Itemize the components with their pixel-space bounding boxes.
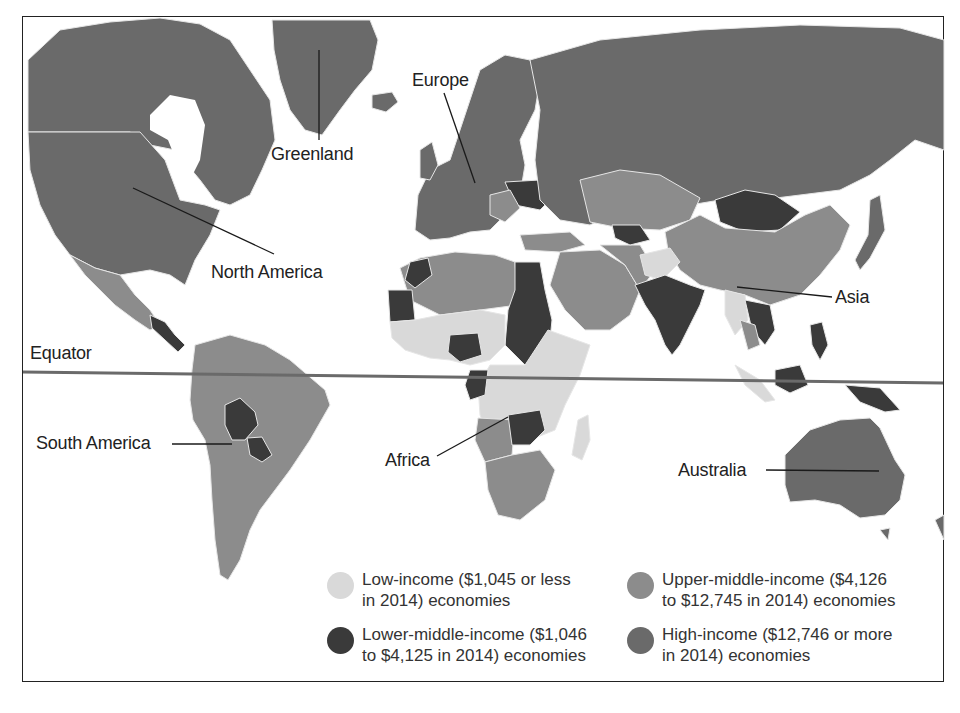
label-greenland: Greenland — [271, 144, 353, 165]
region-australia — [785, 418, 905, 518]
region-afghanistan — [640, 248, 680, 280]
region-philippines — [810, 322, 828, 360]
legend-label-lower-middle-income: Lower-middle-income ($1,046 to $4,125 in… — [362, 624, 662, 666]
region-japan — [855, 195, 885, 270]
label-asia: Asia — [835, 287, 869, 308]
label-africa: Africa — [385, 450, 430, 471]
region-central-america — [150, 315, 185, 352]
legend-item-lower-middle-income: Lower-middle-income ($1,046 to $4,125 in… — [327, 624, 662, 666]
region-papua — [845, 385, 900, 412]
region-greenland — [272, 20, 378, 135]
legend-label-low-income: Low-income ($1,045 or less in 2014) econ… — [362, 569, 662, 611]
region-zambia — [508, 410, 545, 445]
legend-item-low-income: Low-income ($1,045 or less in 2014) econ… — [327, 569, 662, 611]
label-europe: Europe — [412, 70, 469, 91]
region-sumatra — [735, 365, 775, 402]
region-new-zealand — [935, 515, 944, 540]
legend-swatch-lower-middle-income — [327, 627, 354, 654]
label-equator: Equator — [30, 343, 92, 364]
label-south-america: South America — [36, 433, 150, 454]
legend-item-upper-middle-income: Upper-middle-income ($4,126 to $12,745 i… — [627, 569, 960, 611]
region-indonesia-borneo — [775, 365, 808, 393]
region-southern-africa — [485, 450, 555, 520]
region-congo — [465, 370, 488, 400]
legend-swatch-high-income — [627, 627, 654, 654]
region-turkey — [520, 232, 585, 252]
region-madagascar — [572, 415, 590, 460]
legend-label-high-income: High-income ($12,746 or more in 2014) ec… — [662, 624, 960, 666]
region-iceland — [372, 92, 398, 112]
legend-label-upper-middle-income: Upper-middle-income ($4,126 to $12,745 i… — [662, 569, 960, 611]
label-north-america: North America — [211, 262, 322, 283]
region-mauritania — [388, 290, 415, 322]
legend-item-high-income: High-income ($12,746 or more in 2014) ec… — [627, 624, 960, 666]
legend-swatch-upper-middle-income — [627, 572, 654, 599]
region-tasmania — [880, 528, 890, 540]
region-india — [635, 275, 705, 355]
label-australia: Australia — [678, 460, 746, 481]
legend-swatch-low-income — [327, 572, 354, 599]
